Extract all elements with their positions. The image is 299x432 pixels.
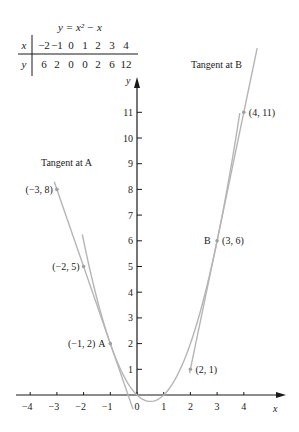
y-tick-label: 3 xyxy=(128,312,133,323)
point-label: (3, 6) xyxy=(222,235,244,247)
data-point xyxy=(109,342,113,346)
x-tick-label: −4 xyxy=(22,401,33,412)
table-title: y = x² − x xyxy=(57,21,102,33)
point-label: (−2, 5) xyxy=(52,261,79,273)
y-tick-label: 2 xyxy=(128,338,133,349)
table-x-cell: 4 xyxy=(123,39,129,51)
x-tick-label: −3 xyxy=(49,401,60,412)
tangent-b-annotation: Tangent at B xyxy=(191,59,242,70)
y-tick-label: 7 xyxy=(128,210,133,221)
table-x-cell: 1 xyxy=(82,39,88,51)
x-tick-label: 0 xyxy=(135,401,140,412)
value-table: y = x² − xxy−2−10123462002612 xyxy=(18,21,138,76)
x-tick-label: 4 xyxy=(241,401,246,412)
table-y-cell: 6 xyxy=(109,58,115,70)
y-tick-label: 5 xyxy=(128,261,133,272)
y-tick-label: 9 xyxy=(128,158,133,169)
data-point xyxy=(242,111,246,115)
x-tick-label: 2 xyxy=(188,401,193,412)
annotations: (−3, 8)(−2, 5)(−1, 2)A(2, 1)(3, 6)B(4, 1… xyxy=(26,59,276,376)
x-tick-label: 1 xyxy=(161,401,166,412)
point-a-label: A xyxy=(98,338,106,349)
table-y-cell: 2 xyxy=(54,58,60,70)
data-point xyxy=(55,188,59,192)
point-b-label: B xyxy=(204,235,211,246)
table-x-cell: 3 xyxy=(109,39,115,51)
table-x-cell: −2 xyxy=(38,39,50,51)
x-tick-label: −1 xyxy=(102,401,113,412)
table-x-cell: 2 xyxy=(95,39,101,51)
table-x-cell: 0 xyxy=(68,39,74,51)
axes: xy−4−3−2−1012341234567891011 xyxy=(16,75,286,414)
x-tick-label: −2 xyxy=(75,401,86,412)
x-tick-label: 3 xyxy=(215,401,220,412)
table-x-header: x xyxy=(21,39,27,51)
y-tick-label: 1 xyxy=(128,364,133,375)
table-y-header: y xyxy=(21,58,27,70)
tangent-a-line xyxy=(54,182,133,409)
y-tick-label: 4 xyxy=(128,287,133,298)
data-point xyxy=(82,265,86,269)
point-label: (−1, 2) xyxy=(68,338,95,350)
y-axis-arrow-icon xyxy=(134,77,140,88)
y-tick-label: 10 xyxy=(123,133,133,144)
point-label: (2, 1) xyxy=(195,364,217,376)
tangent-a-annotation: Tangent at A xyxy=(41,157,93,168)
table-y-cell: 12 xyxy=(121,58,132,70)
parabola-tangent-chart: y = x² − xxy−2−10123462002612 xy−4−3−2−1… xyxy=(0,0,299,432)
plot-lines xyxy=(54,48,257,409)
data-point xyxy=(215,239,219,243)
x-axis-label: x xyxy=(272,403,278,414)
table-y-cell: 0 xyxy=(82,58,88,70)
x-axis-arrow-icon xyxy=(276,392,286,398)
y-tick-label: 8 xyxy=(128,184,133,195)
y-axis-label: y xyxy=(125,75,131,86)
y-tick-label: 6 xyxy=(128,235,133,246)
parabola-curve xyxy=(82,113,240,401)
data-point xyxy=(189,368,193,372)
table-y-cell: 6 xyxy=(41,58,47,70)
tangent-b-line xyxy=(190,48,258,373)
table-y-cell: 0 xyxy=(68,58,74,70)
table-x-cell: −1 xyxy=(51,39,63,51)
table-y-cell: 2 xyxy=(95,58,101,70)
point-label: (4, 11) xyxy=(249,107,275,119)
y-tick-label: 11 xyxy=(123,107,133,118)
point-label: (−3, 8) xyxy=(26,184,53,196)
